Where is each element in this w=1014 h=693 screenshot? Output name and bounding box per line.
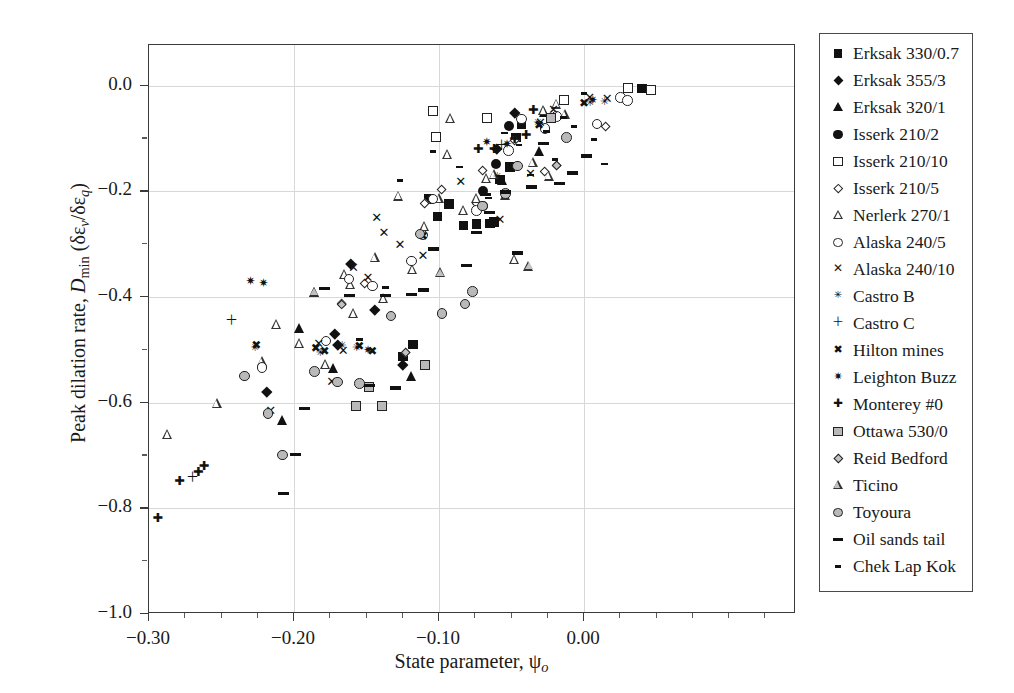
x-axis-tick xyxy=(293,613,294,621)
y-axis-tick xyxy=(140,296,148,297)
legend-swatch-grey-diamond-icon xyxy=(828,449,848,469)
legend-swatch-filled-circle-icon xyxy=(828,125,848,145)
x-axis-minor-tick xyxy=(221,613,222,618)
scatter-chart-figure: Peak dilation rate, Dmin (δεv/δεq) ✕✕✕✕✕… xyxy=(0,0,1014,693)
x-axis-minor-tick xyxy=(329,613,330,618)
legend-swatch-open-circle-icon xyxy=(828,233,848,253)
legend-swatch-grey-circle-icon xyxy=(828,503,848,523)
x-axis-minor-tick xyxy=(619,613,620,618)
y-axis-tick-label: −1.0 xyxy=(58,601,132,623)
data-points-layer: ✕✕✕✕✕✕✕✕✕✕✕✕✕✕✕✕✕✳✳✳✳✳✳✳✳✳＋＋＋✖✖✖✖✖✖✖✖✷✷✷… xyxy=(149,45,794,612)
legend-label: Oil sands tail xyxy=(853,531,945,549)
y-axis-tick xyxy=(140,613,148,614)
y-axis-tick-label: −0.4 xyxy=(58,284,132,306)
legend-swatch-grey-triangle-icon xyxy=(828,476,848,496)
legend-label: Monterey #0 xyxy=(853,396,943,414)
x-axis-tick-label: 0.00 xyxy=(533,627,633,649)
legend-item[interactable]: Alaska 240/5 xyxy=(820,229,972,256)
legend-label: Erksak 320/1 xyxy=(853,99,946,117)
legend-item[interactable]: ✕Alaska 240/10 xyxy=(820,256,972,283)
legend-item[interactable]: Reid Bedford xyxy=(820,445,972,472)
legend-label: Isserk 210/10 xyxy=(853,153,948,171)
legend-item[interactable]: Erksak 320/1 xyxy=(820,94,972,121)
legend-box: Erksak 330/0.7Erksak 355/3Erksak 320/1Is… xyxy=(819,33,973,592)
legend-swatch-open-square-icon xyxy=(828,152,848,172)
y-axis-minor-tick xyxy=(142,560,147,561)
y-axis-tick xyxy=(140,190,148,191)
y-axis-tick xyxy=(140,507,148,508)
legend-item[interactable]: Ticino xyxy=(820,472,972,499)
y-axis-tick-label: 0.0 xyxy=(58,73,132,95)
x-axis-minor-tick xyxy=(474,613,475,618)
x-axis-minor-tick xyxy=(366,613,367,618)
legend-label: Nerlerk 270/1 xyxy=(853,207,951,225)
legend-item[interactable]: ✚Monterey #0 xyxy=(820,391,972,418)
legend-item[interactable]: ✳Castro B xyxy=(820,283,972,310)
legend-swatch-small-dash-icon xyxy=(828,557,848,577)
legend-swatch-bold-x-icon: ✖ xyxy=(828,341,848,361)
legend-swatch-filled-triangle-icon xyxy=(828,98,848,118)
legend-item[interactable]: Isserk 210/5 xyxy=(820,175,972,202)
legend-swatch-open-triangle-icon xyxy=(828,206,848,226)
x-axis-minor-tick xyxy=(656,613,657,618)
x-axis-tick xyxy=(148,613,149,621)
legend-item[interactable]: Erksak 330/0.7 xyxy=(820,40,972,67)
legend-item[interactable]: Toyoura xyxy=(820,499,972,526)
x-axis-tick-label: −0.10 xyxy=(388,627,488,649)
legend-item[interactable]: Chek Lap Kok xyxy=(820,553,972,580)
x-axis-minor-tick xyxy=(728,613,729,618)
legend-swatch-star-x-icon: ✳ xyxy=(828,287,848,307)
x-axis-minor-tick xyxy=(257,613,258,618)
x-axis-tick-label: −0.30 xyxy=(98,627,198,649)
legend-item[interactable]: Isserk 210/2 xyxy=(820,121,972,148)
x-axis-title: State parameter, ψo xyxy=(148,650,795,676)
y-axis-minor-tick xyxy=(142,454,147,455)
x-axis-tick xyxy=(583,613,584,621)
x-axis-minor-tick xyxy=(184,613,185,618)
plot-area: ✕✕✕✕✕✕✕✕✕✕✕✕✕✕✕✕✕✳✳✳✳✳✳✳✳✳＋＋＋✖✖✖✖✖✖✖✖✷✷✷… xyxy=(148,44,795,613)
legend-swatch-plus-bold-icon: ✚ xyxy=(828,395,848,415)
x-axis-minor-tick xyxy=(547,613,548,618)
y-axis-tick xyxy=(140,402,148,403)
legend-swatch-cross-x-icon: ✕ xyxy=(828,260,848,280)
x-axis-tick-label: −0.20 xyxy=(243,627,343,649)
legend-item[interactable]: Erksak 355/3 xyxy=(820,67,972,94)
legend-label: Leighton Buzz xyxy=(853,369,957,387)
legend-label: Chek Lap Kok xyxy=(853,558,956,576)
legend-item[interactable]: ＋Castro C xyxy=(820,310,972,337)
legend-item[interactable]: ✷Leighton Buzz xyxy=(820,364,972,391)
y-axis-tick-label: −0.6 xyxy=(58,390,132,412)
y-axis-tick-label: −0.8 xyxy=(58,495,132,517)
legend-swatch-bold-star-icon: ✷ xyxy=(828,368,848,388)
y-axis-minor-tick xyxy=(142,349,147,350)
legend-label: Alaska 240/5 xyxy=(853,234,946,252)
legend-item[interactable]: Ottawa 530/0 xyxy=(820,418,972,445)
y-axis-tick xyxy=(140,85,148,86)
legend-item[interactable]: Isserk 210/10 xyxy=(820,148,972,175)
legend-swatch-filled-square-icon xyxy=(828,44,848,64)
legend-label: Erksak 355/3 xyxy=(853,72,946,90)
legend-label: Ticino xyxy=(853,477,898,495)
legend-swatch-plus-thin-icon: ＋ xyxy=(828,314,848,334)
y-axis-minor-tick xyxy=(142,137,147,138)
legend-label: Reid Bedford xyxy=(853,450,948,468)
legend-label: Toyoura xyxy=(853,504,911,522)
legend-swatch-filled-diamond-icon xyxy=(828,71,848,91)
y-axis-minor-tick xyxy=(142,243,147,244)
legend-label: Hilton mines xyxy=(853,342,944,360)
y-axis-tick-label: −0.2 xyxy=(58,178,132,200)
legend-label: Alaska 240/10 xyxy=(853,261,955,279)
legend-label: Isserk 210/5 xyxy=(853,180,939,198)
x-axis-tick xyxy=(438,613,439,621)
legend-label: Castro B xyxy=(853,288,915,306)
legend-swatch-open-diamond-icon xyxy=(828,179,848,199)
legend-item[interactable]: Nerlerk 270/1 xyxy=(820,202,972,229)
legend-item[interactable]: Oil sands tail xyxy=(820,526,972,553)
legend-swatch-grey-square-icon xyxy=(828,422,848,442)
x-axis-minor-tick xyxy=(764,613,765,618)
legend-label: Castro C xyxy=(853,315,915,333)
legend-swatch-dash-icon xyxy=(828,530,848,550)
x-axis-minor-tick xyxy=(511,613,512,618)
x-axis-minor-tick xyxy=(692,613,693,618)
legend-item[interactable]: ✖Hilton mines xyxy=(820,337,972,364)
